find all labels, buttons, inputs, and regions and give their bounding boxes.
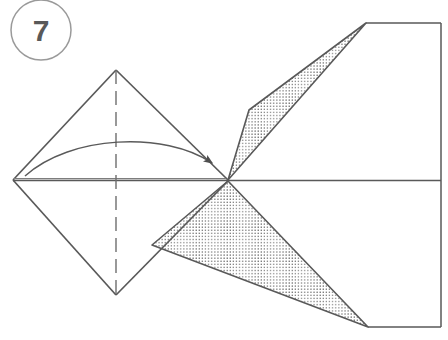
lower-stippled-triangle xyxy=(152,181,368,327)
diamond-edge-lower-left xyxy=(13,180,116,295)
origami-step-figure: 7 xyxy=(0,0,448,340)
diamond-edge-upper-right xyxy=(116,70,228,180)
stippled-flaps-group xyxy=(152,23,368,327)
step-number-badge: 7 xyxy=(11,0,71,60)
frame-lines-group xyxy=(366,23,441,327)
origami-diagram-canvas: 7 xyxy=(0,0,448,340)
step-number-label: 7 xyxy=(33,14,50,47)
diamond-edge-upper-left xyxy=(13,70,116,180)
upper-stippled-triangle xyxy=(228,23,366,180)
fold-arrow xyxy=(25,142,212,176)
